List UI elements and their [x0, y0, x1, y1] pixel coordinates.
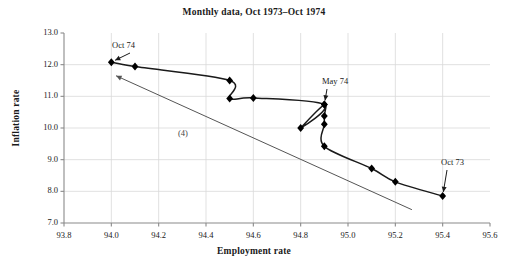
x-tick-label: 94.4	[186, 230, 226, 240]
x-tick-label: 93.8	[44, 230, 84, 240]
gridlines	[64, 33, 490, 223]
annotation-label: Oct 73	[441, 157, 464, 167]
y-tick-label: 11.0	[22, 90, 58, 100]
x-tick-label: 95.6	[470, 230, 508, 240]
y-tick-label: 12.0	[22, 59, 58, 69]
tick-marks	[61, 33, 491, 227]
x-tick-label: 94.0	[91, 230, 131, 240]
chart-plot	[0, 0, 508, 268]
y-tick-label: 7.0	[22, 217, 58, 227]
x-tick-label: 95.2	[375, 230, 415, 240]
chart-figure: Monthly data, Oct 1973–Oct 1974 13.012.0…	[0, 0, 508, 268]
y-tick-label: 10.0	[22, 122, 58, 132]
data-series-line	[111, 62, 442, 196]
annotation-arrows	[115, 53, 447, 192]
reference-line-label: (4)	[178, 128, 188, 138]
y-tick-label: 8.0	[22, 185, 58, 195]
annotation-label: Oct 74	[112, 40, 135, 50]
x-tick-label: 94.8	[281, 230, 321, 240]
x-axis-title: Employment rate	[0, 246, 508, 256]
x-tick-label: 94.2	[139, 230, 179, 240]
y-tick-label: 9.0	[22, 154, 58, 164]
annotation-label: May 74	[322, 76, 348, 86]
y-tick-label: 13.0	[22, 27, 58, 37]
x-tick-label: 94.6	[233, 230, 273, 240]
x-tick-label: 95.0	[328, 230, 368, 240]
reference-line-4	[116, 76, 412, 210]
y-axis-title: Inflation rate	[11, 58, 21, 178]
x-tick-label: 95.4	[423, 230, 463, 240]
